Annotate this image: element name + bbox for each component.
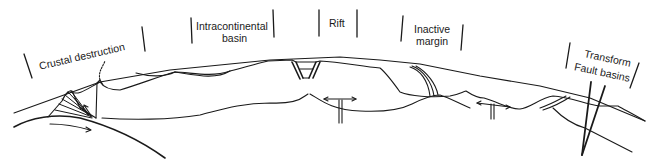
volcano [96, 80, 103, 118]
label-margin: margin [416, 35, 448, 47]
subduction-arrow [50, 124, 90, 130]
transform-faults [582, 82, 605, 155]
label-basin: basin [222, 32, 247, 44]
upper-surface [14, 57, 645, 121]
lower-slope [553, 108, 632, 152]
crust-base [102, 94, 470, 119]
diagram-canvas: Crustal destruction Intracontinental bas… [0, 0, 659, 166]
mantle-upwelling-arrow [477, 101, 510, 119]
volcanic-plume [99, 61, 105, 80]
wedge-hatching [55, 91, 92, 118]
label-rift: Rift [329, 17, 345, 29]
label-intracontinental: Intracontinental [196, 20, 268, 32]
passive-margin-layers [410, 66, 438, 96]
label-inactive: Inactive [414, 23, 450, 35]
subducting-slab [14, 116, 165, 158]
rift-graben [292, 62, 320, 79]
